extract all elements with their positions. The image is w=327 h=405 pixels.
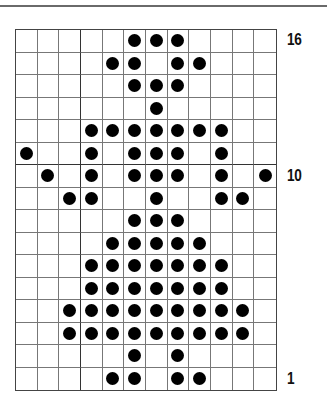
grid-cell-r16-c1 xyxy=(38,30,60,53)
grid-cell-r5-c4 xyxy=(103,278,125,301)
grid-cell-r9-c3 xyxy=(81,188,103,211)
grid-cell-r15-c3 xyxy=(81,53,103,76)
grid-cell-r5-c6 xyxy=(146,278,168,301)
stitch-dot xyxy=(150,79,163,92)
stitch-dot xyxy=(150,327,163,340)
grid-cell-r16-c7 xyxy=(168,30,190,53)
stitch-dot xyxy=(171,259,184,272)
stitch-dot xyxy=(193,237,206,250)
grid-cell-r4-c7 xyxy=(168,300,190,323)
grid-cell-r14-c7 xyxy=(168,75,190,98)
grid-cell-r11-c3 xyxy=(81,143,103,166)
grid-cell-r15-c6 xyxy=(146,53,168,76)
grid-cell-r6-c6 xyxy=(146,255,168,278)
grid-cell-r5-c0 xyxy=(16,278,38,301)
grid-cell-r9-c5 xyxy=(124,188,146,211)
stitch-dot xyxy=(150,169,163,182)
grid-cell-r3-c4 xyxy=(103,323,125,346)
grid-cell-r16-c4 xyxy=(103,30,125,53)
grid-cell-r12-c6 xyxy=(146,120,168,143)
stitch-dot xyxy=(150,102,163,115)
grid-cell-r9-c9 xyxy=(211,188,233,211)
stitch-dot xyxy=(63,192,76,205)
stitch-dot xyxy=(85,259,98,272)
grid-cell-r7-c2 xyxy=(59,233,81,256)
grid-cell-r8-c4 xyxy=(103,210,125,233)
stitch-dot xyxy=(106,327,119,340)
grid-cell-r5-c1 xyxy=(38,278,60,301)
grid-cell-r12-c4 xyxy=(103,120,125,143)
grid-cell-r2-c3 xyxy=(81,345,103,368)
grid-cell-r14-c6 xyxy=(146,75,168,98)
grid-cell-r10-c7 xyxy=(168,165,190,188)
stitch-dot xyxy=(41,169,54,182)
stitch-dot xyxy=(128,372,141,385)
grid-cell-r16-c11 xyxy=(254,30,276,53)
stitch-dot xyxy=(150,259,163,272)
grid-cell-r7-c1 xyxy=(38,233,60,256)
stitch-dot xyxy=(193,372,206,385)
grid-cell-r3-c1 xyxy=(38,323,60,346)
grid-cell-r14-c3 xyxy=(81,75,103,98)
grid-cell-r13-c10 xyxy=(233,98,255,121)
grid-cell-r3-c0 xyxy=(16,323,38,346)
stitch-dot xyxy=(171,214,184,227)
grid-cell-r10-c11 xyxy=(254,165,276,188)
stitch-dot xyxy=(150,147,163,160)
grid-cell-r8-c1 xyxy=(38,210,60,233)
grid-cell-r6-c5 xyxy=(124,255,146,278)
stitch-dot xyxy=(85,327,98,340)
grid-cell-r6-c9 xyxy=(211,255,233,278)
grid-cell-r7-c0 xyxy=(16,233,38,256)
grid-cell-r3-c5 xyxy=(124,323,146,346)
grid-cell-r15-c4 xyxy=(103,53,125,76)
grid-cell-r1-c1 xyxy=(38,368,60,391)
grid-cell-r4-c4 xyxy=(103,300,125,323)
grid-cell-r16-c3 xyxy=(81,30,103,53)
stitch-dot xyxy=(20,147,33,160)
grid-cell-r10-c0 xyxy=(16,165,38,188)
stitch-dot xyxy=(215,192,228,205)
grid-cell-r15-c9 xyxy=(211,53,233,76)
grid-cell-r4-c11 xyxy=(254,300,276,323)
grid-cell-r4-c9 xyxy=(211,300,233,323)
grid-cell-r14-c2 xyxy=(59,75,81,98)
grid-cell-r8-c10 xyxy=(233,210,255,233)
stitch-dot xyxy=(171,57,184,70)
grid-cell-r4-c6 xyxy=(146,300,168,323)
grid-cell-r14-c5 xyxy=(124,75,146,98)
stitch-dot xyxy=(106,282,119,295)
stitch-dot xyxy=(85,304,98,317)
grid-cell-r15-c8 xyxy=(189,53,211,76)
grid-cell-r11-c8 xyxy=(189,143,211,166)
grid-cell-r15-c11 xyxy=(254,53,276,76)
grid-cell-r12-c5 xyxy=(124,120,146,143)
stitch-dot xyxy=(128,169,141,182)
stitch-dot xyxy=(171,237,184,250)
grid-cell-r2-c7 xyxy=(168,345,190,368)
stitch-dot xyxy=(85,282,98,295)
grid-cell-r15-c1 xyxy=(38,53,60,76)
grid-cell-r15-c10 xyxy=(233,53,255,76)
grid-cell-r14-c4 xyxy=(103,75,125,98)
grid-cell-r1-c3 xyxy=(81,368,103,391)
grid-cell-r7-c6 xyxy=(146,233,168,256)
row-label-1: 1 xyxy=(287,369,294,389)
row-label-10: 10 xyxy=(287,166,301,186)
grid-cell-r9-c2 xyxy=(59,188,81,211)
grid-cell-r1-c9 xyxy=(211,368,233,391)
grid-cell-r2-c11 xyxy=(254,345,276,368)
grid-cell-r2-c6 xyxy=(146,345,168,368)
grid-cell-r2-c2 xyxy=(59,345,81,368)
grid-cell-r1-c7 xyxy=(168,368,190,391)
stitch-dot xyxy=(236,304,249,317)
grid-cell-r2-c9 xyxy=(211,345,233,368)
stitch-dot xyxy=(128,304,141,317)
stitch-dot xyxy=(171,349,184,362)
stitch-dot xyxy=(150,304,163,317)
grid-cell-r10-c4 xyxy=(103,165,125,188)
grid-cell-r8-c7 xyxy=(168,210,190,233)
grid-cell-r9-c7 xyxy=(168,188,190,211)
grid-cell-r8-c9 xyxy=(211,210,233,233)
grid-cell-r13-c4 xyxy=(103,98,125,121)
